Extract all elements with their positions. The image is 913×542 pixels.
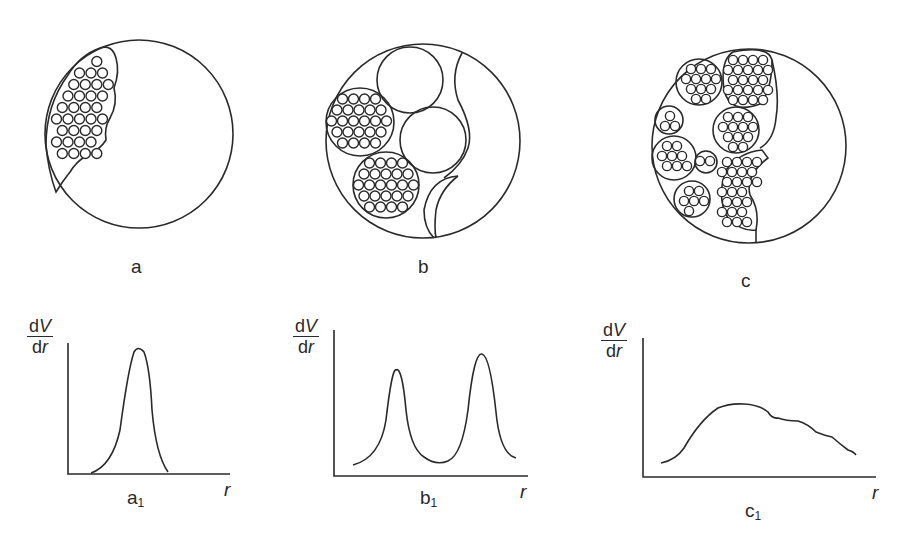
chart-a1-curve — [91, 349, 168, 474]
particle — [667, 151, 676, 160]
particle — [689, 196, 698, 205]
particle — [732, 157, 741, 166]
particle — [360, 94, 370, 104]
panel-label-a: a — [131, 256, 142, 278]
particle — [103, 80, 113, 90]
particle — [686, 84, 695, 93]
particle — [681, 74, 690, 83]
particle — [338, 94, 348, 104]
particle — [409, 180, 419, 190]
particle — [360, 138, 370, 148]
particle — [728, 75, 737, 84]
particle — [670, 121, 679, 130]
chart-a1 — [68, 343, 230, 474]
particle — [717, 187, 726, 196]
chart-c1 — [643, 338, 876, 477]
particle — [758, 55, 767, 64]
particle — [349, 116, 359, 126]
particle — [354, 127, 364, 137]
particle — [376, 158, 386, 168]
particle — [398, 180, 408, 190]
particle — [662, 141, 671, 150]
particle — [738, 142, 747, 151]
panel-a-diagram — [45, 40, 233, 228]
particle — [733, 112, 742, 121]
particle — [732, 217, 741, 226]
particle — [758, 75, 767, 84]
particle — [679, 196, 688, 205]
particle — [717, 207, 726, 216]
particle — [63, 91, 73, 101]
particle — [738, 55, 747, 64]
particle — [737, 207, 746, 216]
particle — [332, 105, 342, 115]
particle — [86, 137, 96, 147]
particle — [376, 180, 386, 190]
particle — [332, 127, 342, 137]
particle — [699, 196, 708, 205]
particle — [684, 186, 693, 195]
chart-a1-axes — [68, 343, 230, 474]
particle — [706, 64, 715, 73]
particle — [98, 91, 108, 101]
chart-b1-curve — [353, 354, 516, 465]
particle — [677, 151, 686, 160]
particle — [717, 167, 726, 176]
particle — [86, 68, 96, 78]
particle — [365, 127, 375, 137]
particle — [743, 65, 752, 74]
particle — [343, 127, 353, 137]
particle — [705, 156, 714, 165]
particle — [737, 187, 746, 196]
particle — [327, 116, 337, 126]
particle — [684, 206, 693, 215]
particle — [371, 94, 381, 104]
particle — [387, 202, 397, 212]
particle — [365, 158, 375, 168]
particle — [69, 103, 79, 113]
particle — [338, 138, 348, 148]
particle — [695, 156, 704, 165]
chart-c1-xlabel: r — [872, 482, 878, 504]
particle — [75, 68, 85, 78]
particle — [722, 157, 731, 166]
particle — [660, 121, 669, 130]
particle — [365, 180, 375, 190]
particle — [359, 191, 369, 201]
particle — [682, 161, 691, 170]
particle — [743, 85, 752, 94]
particle — [370, 191, 380, 201]
chart-c1-curve — [661, 404, 856, 463]
particle — [733, 65, 742, 74]
particle — [92, 103, 102, 113]
particle — [691, 74, 700, 83]
particle — [727, 207, 736, 216]
particle — [392, 169, 402, 179]
particle — [752, 157, 761, 166]
particle — [672, 141, 681, 150]
particle — [52, 114, 62, 124]
particle — [738, 95, 747, 104]
particle — [92, 126, 102, 136]
particle — [723, 132, 732, 141]
chart-b1-xlabel: r — [520, 481, 526, 503]
particle — [69, 80, 79, 90]
panel-b-diagram — [326, 44, 520, 238]
particle — [723, 65, 732, 74]
particle — [748, 122, 757, 131]
particle — [753, 65, 762, 74]
particle — [701, 74, 710, 83]
particle — [665, 111, 674, 120]
particle — [732, 177, 741, 186]
particle — [657, 151, 666, 160]
particle — [349, 138, 359, 148]
particle — [743, 112, 752, 121]
particle — [392, 191, 402, 201]
particle — [349, 94, 359, 104]
particle — [98, 114, 108, 124]
particle — [52, 137, 62, 147]
particle — [381, 191, 391, 201]
particle — [381, 169, 391, 179]
particle — [727, 167, 736, 176]
particle — [80, 149, 90, 159]
